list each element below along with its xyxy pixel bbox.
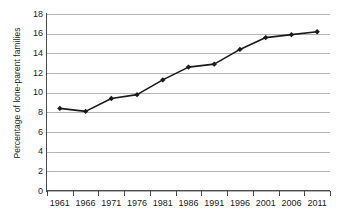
data-point-marker — [289, 32, 294, 37]
data-point-marker — [314, 29, 319, 34]
data-point-marker — [83, 109, 88, 114]
data-point-marker — [263, 35, 268, 40]
line-chart: Percentage of lone-parent families 02468… — [0, 0, 339, 218]
data-series-layer — [0, 0, 339, 218]
series-line — [60, 32, 317, 112]
data-point-marker — [57, 106, 62, 111]
data-point-marker — [109, 96, 114, 101]
data-point-marker — [186, 64, 191, 69]
